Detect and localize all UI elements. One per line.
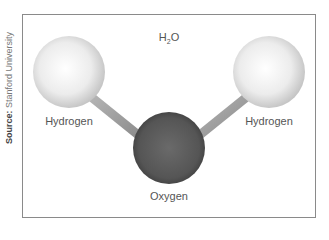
hydrogen-label-left: Hydrogen [45, 115, 93, 127]
hydrogen-atom-left [33, 36, 105, 108]
bond-left [90, 96, 142, 138]
hydrogen-atom-right [233, 36, 305, 108]
bond-right [196, 96, 248, 138]
hydrogen-label-right: Hydrogen [245, 115, 293, 127]
molecule-formula: H2O [159, 31, 179, 45]
oxygen-atom [133, 112, 205, 184]
oxygen-label: Oxygen [150, 190, 188, 202]
